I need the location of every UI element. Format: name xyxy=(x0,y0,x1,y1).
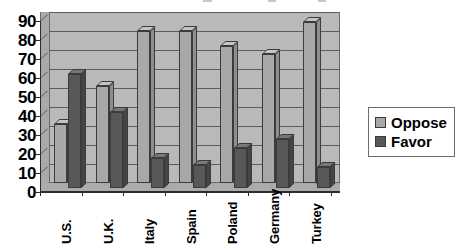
bar-side-face xyxy=(289,134,294,188)
bar-favor-poland xyxy=(234,148,247,188)
y-axis-tickmark xyxy=(36,173,40,174)
bar-front-face xyxy=(151,158,164,188)
y-axis-tick-label: 10 xyxy=(18,165,36,182)
bar-front-face xyxy=(110,112,123,188)
legend-item: Oppose xyxy=(375,113,447,132)
y-axis-tick-label: 0 xyxy=(27,184,36,201)
plot-area xyxy=(40,12,340,192)
bar-front-face xyxy=(220,46,233,183)
bar-front-face xyxy=(96,86,109,183)
bar-side-face xyxy=(123,107,128,188)
x-axis-tick-label: Italy xyxy=(142,219,157,244)
y-axis-tickmark xyxy=(36,97,40,98)
chart-legend: OpposeFavor xyxy=(368,107,455,157)
legend-swatch-favor xyxy=(375,136,386,147)
bar-front-face xyxy=(68,74,81,188)
bar-favor-uk xyxy=(110,112,123,188)
bar-side-face xyxy=(164,153,169,188)
x-axis: U.S.U.K.ItalySpainPolandGermanyTurkey xyxy=(40,196,340,251)
bar-oppose-turkey xyxy=(303,22,316,184)
bar-favor-italy xyxy=(151,158,164,188)
y-axis-tick-label: 80 xyxy=(18,32,36,49)
bar-oppose-uk xyxy=(96,86,109,183)
bar-front-face xyxy=(317,167,330,188)
x-axis-tick-label: Spain xyxy=(184,210,199,244)
cropped-title-mark xyxy=(318,0,326,2)
bar-side-face xyxy=(206,161,211,188)
y-axis: 0102030405060708090 xyxy=(0,0,36,251)
y-axis-tickmark xyxy=(36,21,40,22)
legend-swatch-oppose xyxy=(375,117,386,128)
y-axis-tickmark xyxy=(36,78,40,79)
y-axis-tickmark xyxy=(36,59,40,60)
bar-favor-germany xyxy=(276,139,289,188)
bar-oppose-poland xyxy=(220,46,233,183)
y-axis-tick-label: 30 xyxy=(18,127,36,144)
y-axis-tick-label: 70 xyxy=(18,51,36,68)
bar-side-face xyxy=(247,144,252,188)
y-axis-tickmark xyxy=(36,116,40,117)
bar-front-face xyxy=(179,31,192,183)
bar-front-face xyxy=(303,22,316,184)
bar-front-face xyxy=(54,124,67,183)
bar-side-face xyxy=(316,17,321,183)
bar-front-face xyxy=(276,139,289,188)
y-axis-tick-label: 90 xyxy=(18,13,36,30)
bar-favor-us xyxy=(68,74,81,188)
x-axis-tick-label: Poland xyxy=(225,202,240,244)
bar-chart: 0102030405060708090 U.S.U.K.ItalySpainPo… xyxy=(0,0,461,251)
y-axis-tick-label: 20 xyxy=(18,146,36,163)
legend-item-label: Favor xyxy=(391,134,432,149)
bar-front-face xyxy=(262,54,275,183)
bar-oppose-us xyxy=(54,124,67,183)
bar-side-face xyxy=(81,69,86,188)
legend-item: Favor xyxy=(375,132,447,151)
bar-favor-turkey xyxy=(317,167,330,188)
bar-favor-spain xyxy=(193,165,206,188)
y-axis-tick-label: 50 xyxy=(18,89,36,106)
x-axis-tick-label: Germany xyxy=(267,189,282,244)
x-axis-tick-label: U.S. xyxy=(59,220,74,244)
y-axis-line xyxy=(40,21,41,192)
bar-front-face xyxy=(137,31,150,183)
y-axis-tick-label: 60 xyxy=(18,70,36,87)
bar-oppose-spain xyxy=(179,31,192,183)
y-axis-tickmark xyxy=(36,135,40,136)
y-axis-tickmark xyxy=(36,40,40,41)
gridline xyxy=(49,12,340,13)
bar-side-face xyxy=(192,26,197,183)
y-axis-tickmark xyxy=(36,154,40,155)
legend-item-label: Oppose xyxy=(391,115,447,130)
x-axis-tick-label: Turkey xyxy=(309,204,324,244)
cropped-title-mark xyxy=(203,0,212,2)
x-axis-line xyxy=(40,191,340,193)
bar-oppose-germany xyxy=(262,54,275,183)
y-axis-tick-label: 40 xyxy=(18,108,36,125)
x-axis-tick-label: U.K. xyxy=(101,219,116,244)
cropped-title-mark xyxy=(268,0,276,2)
bar-front-face xyxy=(234,148,247,188)
bar-front-face xyxy=(193,165,206,188)
bar-oppose-italy xyxy=(137,31,150,183)
